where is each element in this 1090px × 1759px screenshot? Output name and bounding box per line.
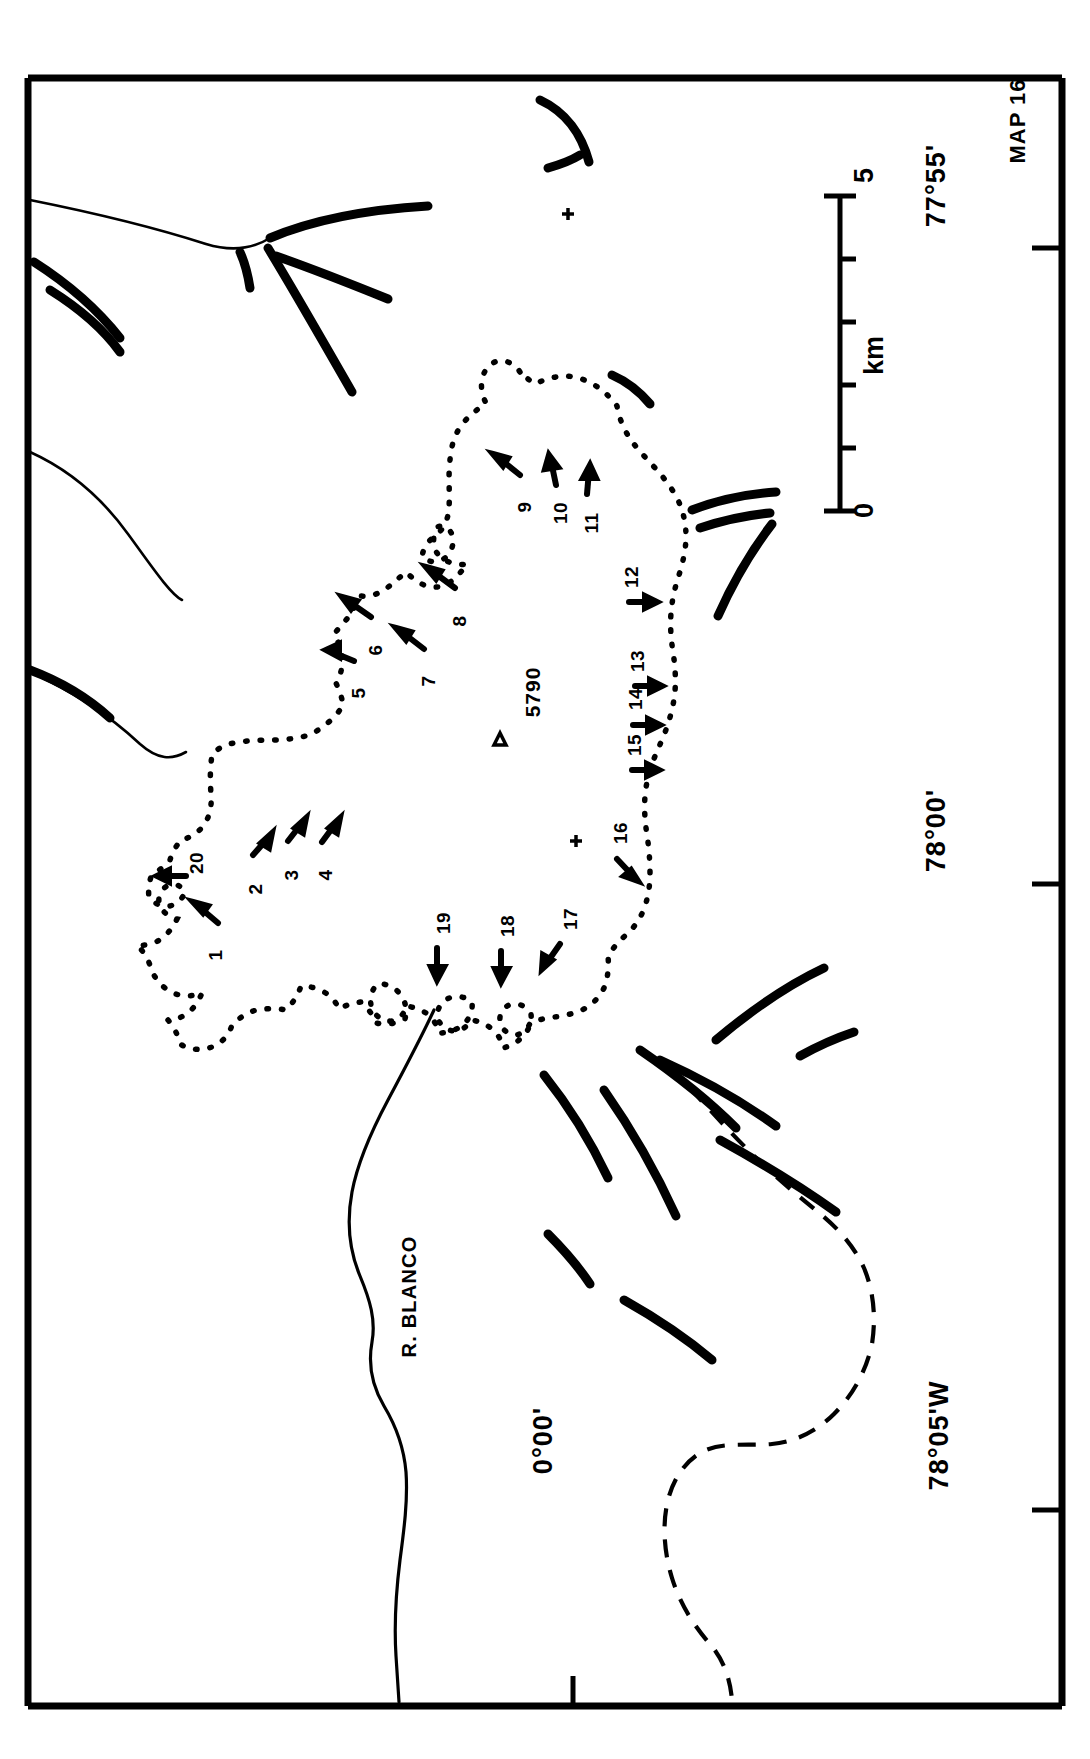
arrow-15 bbox=[632, 764, 659, 776]
arrow-18 bbox=[495, 951, 508, 982]
arrow-7 bbox=[396, 628, 424, 649]
feature-label-14: 14 bbox=[625, 688, 647, 710]
arrow-5 bbox=[326, 644, 354, 661]
scalebar-unit-label: km bbox=[859, 336, 890, 375]
coord-label-78-05w: 78°05'W bbox=[924, 1381, 955, 1491]
feature-label-19: 19 bbox=[433, 912, 455, 934]
arrow-16 bbox=[617, 859, 638, 881]
feature-label-3: 3 bbox=[281, 869, 303, 880]
cross-upper bbox=[562, 208, 574, 220]
coord-label-0-00: 0°00' bbox=[528, 1407, 559, 1474]
arrow-12 bbox=[629, 596, 657, 608]
feature-label-11: 11 bbox=[581, 512, 603, 533]
graticule-cross-marks bbox=[562, 208, 582, 847]
feature-label-9: 9 bbox=[514, 501, 536, 512]
summit-elevation-label: 5790 bbox=[521, 667, 545, 718]
arrow-2 bbox=[253, 833, 272, 855]
dashed-boundary bbox=[665, 1088, 874, 1700]
arrow-3 bbox=[288, 818, 306, 841]
feature-label-10: 10 bbox=[550, 502, 572, 524]
feature-label-13: 13 bbox=[627, 650, 649, 672]
feature-label-2: 2 bbox=[245, 883, 267, 894]
feature-label-12: 12 bbox=[621, 566, 643, 588]
scalebar-max-label: 5 bbox=[849, 168, 880, 183]
feature-label-16: 16 bbox=[610, 822, 632, 844]
arrow-8 bbox=[426, 567, 455, 588]
map-sheet-label: MAP 16 bbox=[1005, 78, 1031, 163]
feature-label-17: 17 bbox=[560, 908, 582, 930]
arrow-14 bbox=[633, 719, 660, 731]
arrow-6 bbox=[342, 597, 371, 617]
graticule-ticks bbox=[573, 248, 1062, 1706]
coord-label-78-00: 78°00' bbox=[921, 789, 952, 872]
feature-label-7: 7 bbox=[418, 675, 440, 686]
arrow-17 bbox=[542, 944, 560, 969]
cross-lower bbox=[570, 835, 582, 847]
map-artwork bbox=[0, 0, 1090, 1759]
feature-label-8: 8 bbox=[449, 615, 471, 626]
feature-label-1: 1 bbox=[205, 949, 227, 960]
feature-label-20: 20 bbox=[186, 852, 208, 874]
map-figure: MAP 16 77°55' 78°00' 78°05'W 0°00' 5 0 k… bbox=[0, 0, 1090, 1759]
feature-label-5: 5 bbox=[348, 687, 370, 698]
feature-label-6: 6 bbox=[365, 644, 387, 655]
ridge-lines bbox=[30, 100, 854, 1360]
feature-label-4: 4 bbox=[315, 869, 337, 880]
summit-triangle-icon bbox=[494, 733, 506, 745]
arrow-9 bbox=[493, 454, 520, 475]
arrow-11 bbox=[583, 465, 596, 494]
feature-label-18: 18 bbox=[497, 915, 519, 937]
glacier-outline bbox=[137, 361, 686, 1050]
arrow-20 bbox=[157, 870, 186, 882]
coord-label-77-55: 77°55' bbox=[921, 144, 952, 227]
scale-bar bbox=[824, 196, 856, 511]
arrow-4 bbox=[322, 818, 340, 842]
arrow-10 bbox=[545, 455, 558, 485]
scalebar-min-label: 0 bbox=[849, 503, 880, 518]
arrow-19 bbox=[431, 948, 444, 980]
arrow-1 bbox=[193, 902, 218, 923]
river-label: R. BLANCO bbox=[398, 1236, 421, 1358]
feature-label-15: 15 bbox=[624, 734, 646, 756]
